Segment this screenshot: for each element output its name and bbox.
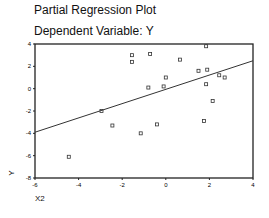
y-tick-label: -2: [26, 108, 32, 114]
regression-line: [35, 61, 253, 132]
x-tick-label: -6: [32, 182, 38, 188]
data-point: [149, 53, 152, 56]
x-tick-label: -2: [120, 182, 126, 188]
y-axis-title: Y: [7, 170, 16, 176]
x-tick-label: -4: [76, 182, 82, 188]
data-point: [164, 76, 167, 79]
x-axis-title: X2: [35, 194, 45, 203]
data-point: [131, 60, 134, 63]
data-point: [197, 69, 200, 72]
data-point: [206, 68, 209, 71]
y-tick-label: -6: [26, 153, 32, 159]
data-point: [205, 83, 208, 86]
data-point: [131, 54, 134, 57]
scatter-plot: -6-4-2024420-2-4-6-8Y: [0, 0, 269, 218]
data-point: [67, 155, 70, 158]
data-point: [178, 58, 181, 61]
data-point: [223, 76, 226, 79]
data-point: [218, 74, 221, 77]
data-point: [156, 123, 159, 126]
data-point: [202, 120, 205, 123]
data-point: [111, 124, 114, 127]
y-tick-label: 2: [28, 63, 32, 69]
y-tick-label: -8: [26, 175, 32, 181]
y-tick-label: 0: [28, 86, 32, 92]
x-tick-label: 4: [251, 182, 255, 188]
data-point: [139, 132, 142, 135]
y-tick-label: 4: [28, 41, 32, 47]
x-tick-label: 2: [208, 182, 212, 188]
y-tick-label: -4: [26, 130, 32, 136]
x-tick-label: 0: [164, 182, 168, 188]
data-point: [162, 85, 165, 88]
data-point: [211, 99, 214, 102]
data-point: [205, 45, 208, 48]
data-point: [147, 86, 150, 89]
